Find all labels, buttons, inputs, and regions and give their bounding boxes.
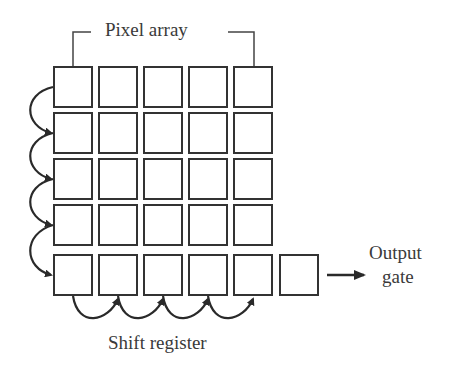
output-gate-label-line1: Output — [369, 242, 422, 264]
vertical-transfer-arrows — [30, 87, 53, 275]
shift-register-arrows — [73, 296, 253, 318]
pixel-array-label: Pixel array — [105, 19, 188, 41]
pixel-grid — [54, 67, 272, 295]
output-gate-label-line2: gate — [382, 266, 414, 288]
output-cell — [280, 255, 318, 295]
ccd-diagram — [0, 0, 455, 373]
shift-register-label: Shift register — [108, 332, 207, 354]
